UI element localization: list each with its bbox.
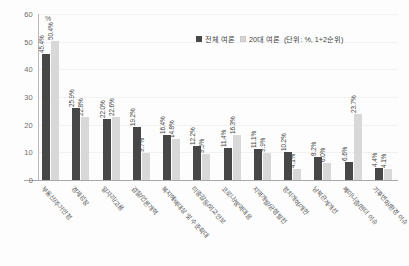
- bar-group: 12.2%9.5%: [193, 14, 210, 180]
- x-axis-category: 지역개발/균형발전: [253, 182, 272, 266]
- y-tick-0: 0: [29, 176, 38, 185]
- bar-group: 22.0%22.6%: [103, 14, 120, 180]
- bar: 6.6%: [345, 162, 353, 180]
- bar: 50.4%: [51, 41, 59, 180]
- bar-group: 11.1%9.9%: [254, 14, 271, 180]
- bar-value-label: 10.2%: [280, 133, 287, 151]
- bar-value-label: 16.4%: [159, 116, 166, 134]
- bar: 9.5%: [202, 154, 210, 180]
- bar-value-label: 14.8%: [168, 120, 175, 138]
- x-axis-category: 페미니즘/젠더 이슈: [343, 182, 362, 266]
- bar-value-label: 9.7%: [138, 138, 145, 152]
- bar-value-label: 23.7%: [350, 96, 357, 114]
- x-axis-category: 미중갈등/외교안보: [192, 182, 211, 266]
- bar: 4.1%: [293, 169, 301, 180]
- bar-value-label: 4.1%: [380, 154, 387, 168]
- x-axis-category: 경제성장: [72, 182, 91, 266]
- x-axis-category-label: 경제성장: [69, 184, 91, 207]
- x-axis-category-label: 일자리/고용: [99, 184, 126, 213]
- bar: 14.8%: [172, 139, 180, 180]
- x-axis-category-label: 검찰/언론개혁: [130, 184, 161, 217]
- bar-value-label: 9.5%: [198, 139, 205, 153]
- x-axis-category: 부동산/주거안정: [42, 182, 61, 266]
- bar-group: 16.4%14.8%: [163, 14, 180, 180]
- bar-value-label: 25.9%: [68, 90, 75, 108]
- bar: 11.1%: [254, 149, 262, 180]
- x-axis-category-label: 기후변화/환경 이슈: [370, 184, 409, 227]
- y-tick-30: 30: [24, 93, 38, 102]
- x-axis-category: 정치개혁/개헌: [283, 182, 302, 266]
- bar-group: 11.4%16.3%: [224, 14, 241, 180]
- y-tick-40: 40: [24, 65, 38, 74]
- bar-value-label: 6.0%: [319, 148, 326, 162]
- bar: 9.7%: [142, 153, 150, 180]
- bar: 23.7%: [354, 114, 362, 180]
- bar: 16.3%: [233, 135, 241, 180]
- bar-value-label: 6.6%: [341, 147, 348, 161]
- y-tick-60: 60: [24, 10, 38, 19]
- bar: 4.4%: [375, 168, 383, 180]
- bar: 25.9%: [72, 108, 80, 180]
- bar: 22.8%: [81, 117, 89, 180]
- x-axis-category: 기후변화/환경 이슈: [373, 182, 392, 266]
- bar: 9.9%: [263, 153, 271, 180]
- x-axis-category: 일자리/고용: [102, 182, 121, 266]
- bar-value-label: 50.4%: [47, 22, 54, 40]
- bar-value-label: 9.9%: [259, 137, 266, 151]
- bar: 11.4%: [224, 148, 232, 180]
- x-axis-category: 코로나/방역대응: [222, 182, 241, 266]
- bar: 16.4%: [163, 135, 171, 180]
- bar: 19.2%: [133, 127, 141, 180]
- bar-value-label: 45.4%: [38, 36, 45, 54]
- x-axis-category-label: 정치개혁/개헌: [280, 184, 311, 217]
- y-tick-20: 20: [24, 120, 38, 129]
- bar-value-label: 22.0%: [99, 101, 106, 119]
- bar: 6.0%: [323, 163, 331, 180]
- bar-value-label: 22.6%: [108, 99, 115, 117]
- bar-value-label: 19.2%: [129, 108, 136, 126]
- x-axis-category-label: 남북관계개선: [310, 184, 340, 216]
- bar-group: 6.6%23.7%: [345, 14, 362, 180]
- bar-group: 19.2%9.7%: [133, 14, 150, 180]
- bar-value-label: 22.8%: [77, 98, 84, 116]
- x-axis-categories: 부동산/주거안정경제성장일자리/고용검찰/언론개혁복지혜택대상 및 수준확대미중…: [38, 182, 398, 266]
- y-tick-10: 10: [24, 148, 38, 157]
- bar-groups: 45.4%50.4%25.9%22.8%22.0%22.6%19.2%9.7%1…: [38, 14, 398, 180]
- bar-value-label: 11.1%: [250, 131, 257, 148]
- bar-value-label: 8.2%: [310, 142, 317, 156]
- bar-value-label: 16.3%: [229, 116, 236, 134]
- bar-value-label: 4.4%: [371, 153, 378, 167]
- x-axis-line: [24, 180, 398, 181]
- y-tick-50: 50: [24, 37, 38, 46]
- x-axis-category: 남북관계개선: [313, 182, 332, 266]
- bar-value-label: 12.2%: [189, 128, 196, 146]
- bar-group: 45.4%50.4%: [42, 14, 59, 180]
- bar-value-label: 4.1%: [289, 154, 296, 168]
- x-axis-category: 검찰/언론개혁: [132, 182, 151, 266]
- bar-group: 4.4%4.1%: [375, 14, 392, 180]
- bar: 4.1%: [384, 169, 392, 180]
- x-axis-category: 복지혜택대상 및 수준확대: [162, 182, 181, 266]
- bar-value-label: 11.4%: [220, 130, 227, 147]
- bar-group: 8.2%6.0%: [314, 14, 331, 180]
- bar: 22.0%: [103, 119, 111, 180]
- bar-chart: 60 50 40 30 20 10 0 % 전체 여론 20대 여론 (단위: …: [0, 0, 409, 266]
- bar: 22.6%: [112, 117, 120, 180]
- bar: 45.4%: [42, 54, 50, 180]
- bar-group: 10.2%4.1%: [284, 14, 301, 180]
- bar-group: 25.9%22.8%: [72, 14, 89, 180]
